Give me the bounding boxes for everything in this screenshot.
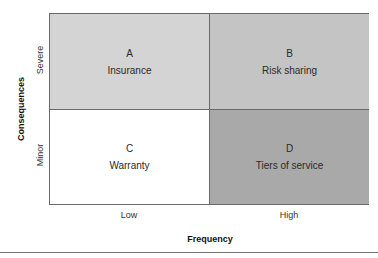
- quadrant-b-letter: B: [286, 48, 293, 59]
- y-level-severe: Severe: [35, 45, 45, 75]
- risk-matrix: A Insurance B Risk sharing C Warranty D …: [49, 13, 369, 205]
- quadrant-d-letter: D: [286, 143, 293, 154]
- bottom-divider: [0, 252, 378, 253]
- quadrant-c-letter: C: [126, 143, 133, 154]
- quadrant-b: B Risk sharing: [210, 14, 369, 110]
- y-level-minor: Minor: [35, 140, 45, 170]
- quadrant-d-label: Tiers of service: [256, 160, 323, 171]
- y-axis-title: Consequences: [16, 74, 26, 144]
- quadrant-b-label: Risk sharing: [262, 65, 317, 76]
- quadrant-a-letter: A: [126, 48, 133, 59]
- quadrant-a: A Insurance: [50, 14, 210, 110]
- quadrant-c: C Warranty: [50, 110, 210, 204]
- quadrant-a-label: Insurance: [108, 65, 152, 76]
- x-axis-title: Frequency: [170, 234, 250, 244]
- quadrant-c-label: Warranty: [109, 160, 149, 171]
- x-level-low: Low: [99, 210, 159, 220]
- x-level-high: High: [259, 210, 319, 220]
- quadrant-d: D Tiers of service: [210, 110, 369, 204]
